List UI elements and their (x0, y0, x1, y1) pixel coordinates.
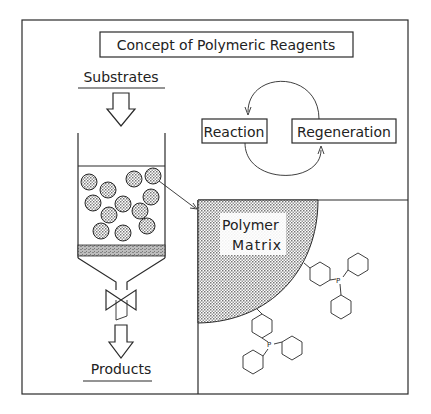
svg-text:Reaction: Reaction (204, 124, 265, 140)
svg-text:P: P (267, 341, 271, 349)
title-text: Concept of Polymeric Reagents (117, 37, 335, 53)
title-box: Concept of Polymeric Reagents (100, 32, 353, 57)
triphenylphosphine-structure-lower: P (243, 309, 302, 374)
svg-text:P: P (336, 277, 340, 285)
arrow-down-icon (109, 325, 133, 358)
reactor-column (78, 133, 165, 290)
svg-text:Polymer: Polymer (222, 217, 279, 233)
reaction-cycle: Reaction Regeneration (202, 81, 396, 175)
triphenylphosphine-structure-upper: P (304, 253, 368, 319)
inset-panel: Polymer Matrix P P (198, 200, 408, 394)
polymer-beads (81, 168, 161, 241)
svg-text:Regeneration: Regeneration (297, 124, 391, 140)
svg-text:Matrix: Matrix (232, 237, 282, 253)
svg-text:Substrates: Substrates (83, 69, 158, 85)
arrow-down-icon (107, 93, 135, 126)
svg-text:Products: Products (91, 361, 151, 377)
valve-icon[interactable] (106, 290, 136, 320)
filter-bed (78, 245, 165, 256)
products-label: Products (83, 361, 152, 381)
substrates-label: Substrates (78, 69, 165, 88)
polymeric-reagents-diagram: Concept of Polymeric Reagents Substrates (0, 0, 431, 414)
